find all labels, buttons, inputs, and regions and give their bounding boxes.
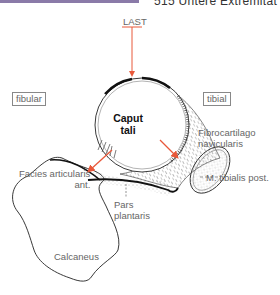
fibrocartilago-line2: navicularis bbox=[198, 138, 256, 149]
force-arrow-fibular bbox=[90, 150, 112, 170]
caput-tali-label: Caput tali bbox=[101, 112, 155, 136]
caput-label-line1: Caput bbox=[101, 112, 155, 124]
facies-articularis-label: Facies articularis ant. bbox=[19, 168, 90, 190]
fibular-label: fibular bbox=[12, 92, 46, 106]
fibrocartilago-label: Fibrocartilago navicularis bbox=[198, 127, 256, 149]
tibialis-post-label: M. tibialis post. bbox=[206, 172, 269, 183]
load-label: LAST bbox=[123, 16, 147, 27]
pars-line1: Pars bbox=[114, 199, 150, 210]
fibrocartilago-line1: Fibrocartilago bbox=[198, 127, 256, 138]
pars-plantaris-label: Pars plantaris bbox=[114, 199, 150, 221]
caput-label-line2: tali bbox=[101, 124, 155, 136]
tibial-label: tibial bbox=[203, 92, 231, 106]
facies-line1: Facies articularis bbox=[19, 168, 90, 179]
calcaneus-label: Calcaneus bbox=[54, 251, 99, 262]
facies-line2: ant. bbox=[19, 179, 90, 190]
pars-line2: plantaris bbox=[114, 210, 150, 221]
